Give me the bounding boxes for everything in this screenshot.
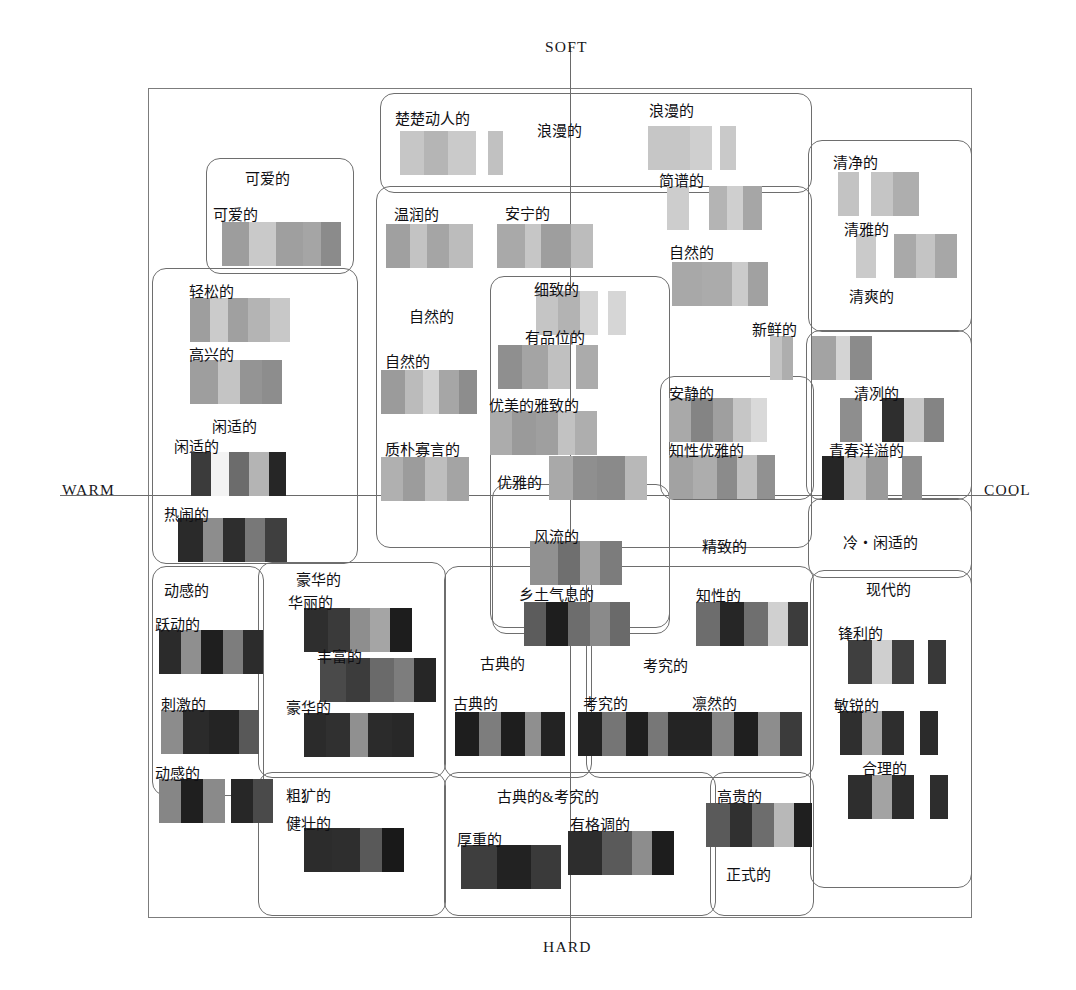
swatch-cell — [717, 455, 737, 499]
swatch-cell — [672, 262, 702, 306]
swatch-cell — [669, 398, 691, 442]
swatch-cell — [381, 457, 403, 501]
word-gorgeous: 华丽的 — [288, 596, 333, 611]
word-delicate: 细致的 — [534, 283, 579, 298]
swatch-gorgeous — [304, 608, 412, 652]
swatch-cell — [882, 711, 904, 755]
swatch-cell — [748, 262, 768, 306]
swatch-cell — [269, 452, 286, 496]
swatch-cell — [920, 711, 938, 755]
swatch-cell — [381, 370, 405, 414]
swatch-cell — [690, 712, 712, 756]
swatch-cell — [183, 710, 209, 754]
swatch-cute — [222, 222, 341, 266]
swatch-cell — [573, 456, 597, 500]
swatch-cell — [871, 172, 893, 216]
swatch-clean — [838, 172, 919, 216]
swatch-cell — [743, 186, 762, 230]
word-rich: 丰富的 — [317, 650, 362, 665]
swatch-chic — [578, 712, 690, 756]
word-leaping: 跃动的 — [155, 618, 200, 633]
swatch-elegant — [549, 456, 647, 500]
group-graceful: 优美的雅致的 — [489, 399, 579, 414]
swatch-cell — [752, 803, 774, 847]
axis-label-hard: HARD — [543, 938, 592, 956]
swatch-cell — [822, 456, 844, 500]
swatch-cell — [691, 398, 713, 442]
swatch-cell — [626, 712, 648, 756]
swatch-cell — [223, 518, 245, 562]
image-scale-diagram: SOFTHARDWARMCOOL可爱的可爱的楚楚动人的浪漫的浪漫的简谱的温润的安… — [0, 0, 1076, 990]
group-modern: 现代的 — [866, 583, 911, 598]
swatch-cell — [610, 602, 630, 646]
swatch-cell — [597, 456, 625, 500]
swatch-cell — [262, 360, 282, 404]
word-intellectual-elegant: 知性优雅的 — [669, 444, 744, 459]
axis-label-cool: COOL — [984, 481, 1031, 499]
swatch-tasteful — [498, 345, 598, 389]
swatch-cell — [706, 803, 730, 847]
swatch-stern — [690, 712, 802, 756]
swatch-cell — [497, 224, 525, 268]
swatch-cell — [209, 710, 239, 754]
swatch-cell — [181, 779, 203, 823]
swatch-cell — [548, 345, 570, 389]
swatch-cell — [231, 779, 253, 823]
swatch-cell — [737, 455, 757, 499]
swatch-plain — [381, 457, 469, 501]
word-intellectual: 知性的 — [696, 589, 741, 604]
swatch-cell — [866, 456, 888, 500]
swatch-cell — [812, 336, 836, 380]
swatch-cell — [190, 298, 210, 342]
word-mild: 温润的 — [394, 208, 439, 223]
swatch-cell — [872, 640, 892, 684]
swatch-cell — [449, 224, 473, 268]
word-pretty: 楚楚动人的 — [395, 112, 470, 127]
swatch-intellectual-elegant — [669, 455, 775, 499]
word-keen: 敏锐的 — [834, 699, 879, 714]
word-quiet: 安静的 — [669, 387, 714, 402]
swatch-clear — [840, 398, 944, 442]
word-simple: 简谱的 — [659, 174, 704, 189]
swatch-stylish — [568, 831, 674, 875]
swatch-cell — [702, 262, 732, 306]
word-exciting: 刺激的 — [161, 698, 206, 713]
swatch-cell — [632, 831, 652, 875]
swatch-cell — [447, 457, 469, 501]
swatch-cell — [859, 172, 871, 216]
swatch-cell — [924, 398, 944, 442]
swatch-cell — [648, 712, 668, 756]
swatch-cell — [602, 712, 626, 756]
swatch-cell — [448, 131, 476, 175]
swatch-cell — [240, 360, 262, 404]
word-stylish: 有格调的 — [570, 818, 630, 833]
word-elegant-flow: 风流的 — [534, 530, 579, 545]
swatch-cell — [696, 602, 720, 646]
swatch-cell — [667, 186, 689, 230]
swatch-cell — [575, 411, 597, 455]
swatch-cell — [248, 298, 270, 342]
swatch-cell — [218, 360, 240, 404]
swatch-cell — [758, 712, 780, 756]
word-exquisite: 精致的 — [702, 540, 747, 555]
swatch-cell — [598, 291, 608, 335]
swatch-natural-2 — [381, 370, 477, 414]
swatch-cell — [211, 452, 229, 496]
swatch-cell — [228, 298, 248, 342]
swatch-cell — [203, 518, 223, 562]
swatch-cell — [390, 608, 412, 652]
cluster-dynamic[interactable] — [152, 566, 264, 796]
swatch-cell — [479, 712, 501, 756]
swatch-cell — [580, 541, 600, 585]
swatch-cell — [405, 370, 423, 414]
swatch-classic — [455, 712, 565, 756]
swatch-cell — [751, 398, 767, 442]
swatch-cell — [689, 186, 709, 230]
swatch-cell — [303, 222, 321, 266]
swatch-cell — [498, 345, 522, 389]
swatch-cell — [229, 452, 249, 496]
swatch-cell — [568, 831, 602, 875]
swatch-cell — [782, 336, 793, 380]
word-natural-1: 自然的 — [669, 246, 714, 261]
swatch-cell — [382, 828, 404, 872]
